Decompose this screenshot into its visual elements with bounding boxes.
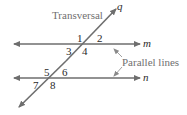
angle-3-label: 3 — [66, 46, 72, 57]
angle-4-label: 4 — [82, 46, 88, 57]
angle-8-label: 8 — [50, 80, 56, 91]
transversal-q — [19, 9, 116, 107]
angle-7-label: 7 — [33, 80, 39, 91]
parallel-lines-pointers — [114, 49, 122, 76]
angle-2-label: 2 — [97, 33, 103, 44]
transversal-label: Transversal — [52, 10, 103, 21]
angle-6-label: 6 — [62, 67, 68, 78]
parallel-lines-label: Parallel lines — [122, 57, 179, 68]
line-m-label: m — [143, 38, 151, 49]
line-q-label: q — [117, 1, 123, 12]
angle-5-label: 5 — [44, 67, 50, 78]
line-n-label: n — [143, 72, 149, 83]
angle-1-label: 1 — [77, 33, 83, 44]
